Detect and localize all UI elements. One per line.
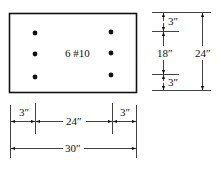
dim-top-cover: 3″ (167, 16, 179, 27)
rebar-left-bottom (33, 75, 38, 80)
rebar-right-top (109, 30, 114, 35)
dim-horizontal-middle: 24″ (65, 116, 83, 127)
dim-horizontal-total: 30″ (64, 143, 82, 154)
rebar-left-middle (33, 52, 38, 57)
rebar-right-middle (109, 51, 114, 56)
dim-right-cover: 3″ (119, 107, 131, 118)
dim-vertical-middle: 18″ (156, 48, 174, 59)
rebar-left-top (33, 31, 38, 36)
rebar-right-bottom (109, 73, 114, 78)
dim-left-cover: 3″ (18, 107, 30, 118)
dim-vertical-total: 24″ (194, 48, 212, 59)
dim-bottom-cover: 3″ (167, 77, 179, 88)
beam-section-diagram (0, 0, 221, 170)
rebar-label: 6 #10 (64, 48, 91, 59)
